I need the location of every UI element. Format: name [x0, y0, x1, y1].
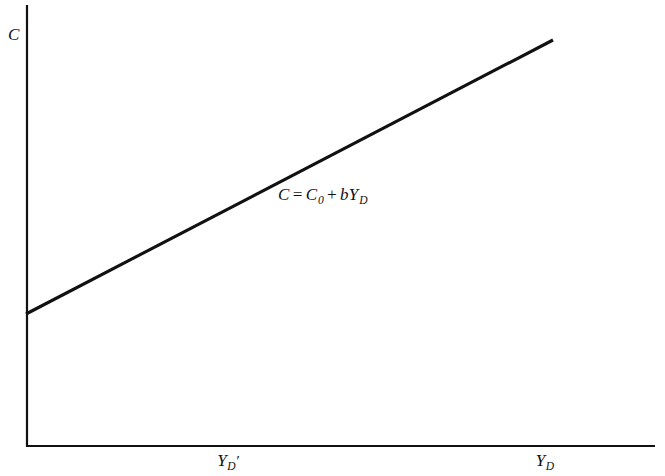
- equation-plus: +: [324, 185, 340, 204]
- equation-slope: b: [340, 185, 349, 204]
- x-axis-label-left-subscript: D: [227, 460, 236, 473]
- x-axis-label-right: YD: [536, 452, 554, 472]
- equation-annotation: C=C0+bYD: [278, 186, 368, 206]
- equation-variable: Y: [349, 185, 359, 204]
- equation-lhs: C: [278, 185, 290, 204]
- equation-variable-subscript: D: [359, 194, 368, 207]
- equation-equals: =: [290, 185, 306, 204]
- consumption-function-line: [26, 40, 553, 314]
- x-axis-label-left-prime: ′: [235, 452, 238, 469]
- figure-canvas: [0, 0, 665, 476]
- y-axis-label: C: [8, 26, 19, 43]
- x-axis-label-left: YD′: [217, 452, 239, 472]
- x-axis-label-right-subscript: D: [545, 460, 554, 473]
- consumption-function-figure: C C=C0+bYD YD′ YD: [0, 0, 665, 476]
- equation-intercept: C: [306, 185, 318, 204]
- y-axis-label-text: C: [8, 25, 19, 44]
